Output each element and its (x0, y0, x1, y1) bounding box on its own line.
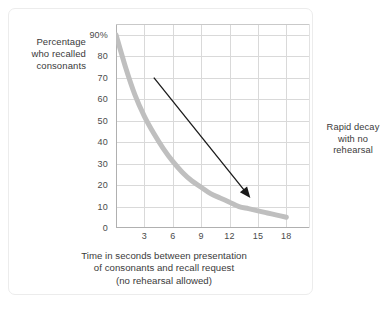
y-tick-label: 80 (98, 51, 108, 61)
y-axis-tick-labels: 90% 80 70 60 50 40 30 20 10 0 (78, 24, 112, 228)
x-axis-caption: Time in seconds between presentation of … (28, 250, 300, 287)
arrow-head-icon (240, 186, 250, 197)
y-axis-title-line-3: consonants (14, 60, 86, 72)
arrow-shaft (154, 78, 246, 192)
y-tick-label: 60 (98, 94, 108, 104)
y-tick-label: 50 (98, 116, 108, 126)
y-tick-label: 10 (98, 202, 108, 212)
y-tick-label: 70 (98, 73, 108, 83)
y-tick-label: 30 (98, 159, 108, 169)
annotation-line-1: Rapid decay (307, 122, 384, 134)
x-tick-label: 3 (142, 231, 147, 241)
y-axis-title-line-1: Percentage (14, 36, 86, 48)
y-tick-label: 90% (89, 30, 108, 40)
x-axis-tick-labels: 3 6 9 12 15 18 (116, 231, 310, 245)
y-tick-label: 0 (103, 223, 108, 233)
x-tick-label: 9 (199, 231, 204, 241)
annotation-label: Rapid decay with no rehearsal (307, 122, 384, 157)
annotation-line-2: with no (307, 134, 384, 146)
annotation-arrow (154, 78, 251, 198)
y-tick-label: 20 (98, 180, 108, 190)
x-axis-caption-line-1: Time in seconds between presentation (28, 250, 300, 262)
y-axis-title: Percentage who recalled consonants (14, 36, 86, 73)
chart-svg (116, 24, 310, 228)
x-axis-caption-line-3: (no rehearsal allowed) (28, 275, 300, 287)
x-tick-label: 15 (253, 231, 263, 241)
y-axis-title-line-2: who recalled (14, 48, 86, 60)
plot-area: Rapid decay with no rehearsal (116, 24, 310, 228)
x-axis-caption-line-2: of consonants and recall request (28, 262, 300, 274)
x-tick-label: 6 (170, 231, 175, 241)
y-tick-label: 40 (98, 137, 108, 147)
x-tick-label: 18 (281, 231, 291, 241)
x-tick-label: 12 (224, 231, 234, 241)
annotation-line-3: rehearsal (307, 145, 384, 157)
